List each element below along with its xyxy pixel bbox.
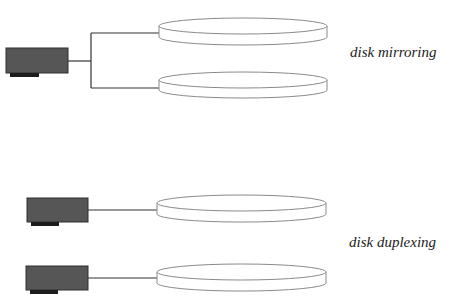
mirroring-disk-1	[159, 18, 327, 45]
duplexing-label: disk duplexing	[349, 234, 436, 251]
duplexing-disk-2	[157, 264, 326, 291]
mirroring-controller	[6, 48, 68, 77]
duplexing-disk-1	[157, 195, 326, 222]
duplexing-controller-1	[27, 198, 88, 226]
mirroring-disk-2	[159, 72, 327, 98]
mirroring-connector	[68, 33, 159, 88]
mirroring-label: disk mirroring	[350, 44, 437, 61]
duplexing-controller-2	[26, 266, 88, 294]
